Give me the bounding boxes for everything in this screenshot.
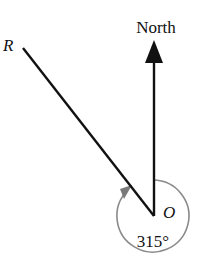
point-r-label: R (2, 36, 14, 55)
line-or (23, 48, 154, 216)
north-label: North (136, 18, 176, 37)
north-arrowhead-icon (145, 40, 163, 63)
angle-label: 315° (137, 232, 169, 251)
origin-label: O (163, 203, 175, 222)
bearing-diagram: North R O 315° (0, 0, 199, 264)
